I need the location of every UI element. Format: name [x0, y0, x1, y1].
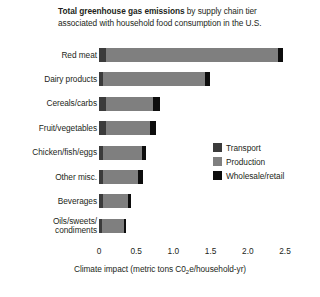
x-axis-title-subscript: 2: [186, 269, 189, 275]
chart-title-line1: Total greenhouse gas emissions by supply…: [58, 6, 316, 18]
stacked-bar: [99, 72, 210, 86]
y-axis-label: Beverages: [1, 197, 97, 207]
y-axis-label-line: condiments: [1, 226, 97, 236]
y-axis-label: Cereals/carbs: [1, 99, 97, 109]
chart-legend: TransportProductionWholesale/retail: [213, 142, 317, 184]
bar-segment-production: [106, 121, 149, 135]
chart-subtitle: associated with household food consumpti…: [58, 18, 316, 30]
bar-segment-wholesale-retail: [205, 72, 209, 86]
bar-row: [99, 121, 285, 135]
legend-label: Production: [226, 157, 265, 167]
bar-segment-wholesale-retail: [128, 194, 131, 208]
x-axis-tick: 1.0: [168, 246, 180, 256]
legend-swatch: [213, 157, 222, 166]
bar-segment-production: [103, 72, 206, 86]
bar-segment-production: [103, 146, 142, 160]
y-axis-label: Dairy products: [1, 75, 97, 85]
legend-item: Transport: [213, 142, 317, 153]
stacked-bar: [99, 121, 156, 135]
bar-row: [99, 194, 285, 208]
x-axis-tick: 0.5: [130, 246, 142, 256]
bar-segment-wholesale-retail: [138, 170, 142, 184]
y-axis-labels: Red meatDairy productsCereals/carbsFruit…: [0, 47, 97, 242]
bar-segment-production: [103, 170, 139, 184]
bar-segment-production: [103, 194, 128, 208]
stacked-bar: [99, 146, 146, 160]
bar-segment-wholesale-retail: [124, 219, 126, 233]
legend-item: Production: [213, 156, 317, 167]
y-axis-label: Chicken/fish/eggs: [1, 148, 97, 158]
stacked-bar: [99, 219, 126, 233]
y-axis-label-line: Beverages: [1, 197, 97, 207]
x-axis-tick: 1.5: [205, 246, 217, 256]
y-axis-label-line: Chicken/fish/eggs: [1, 148, 97, 158]
bar-segment-production: [102, 219, 124, 233]
y-axis-label-line: Cereals/carbs: [1, 99, 97, 109]
bar-row: [99, 97, 285, 111]
chart-title: Total greenhouse gas emissions by supply…: [58, 6, 316, 29]
y-axis-label-line: Dairy products: [1, 75, 97, 85]
x-axis-tick-labels: 00.51.01.52.02.5: [0, 246, 320, 258]
bar-segment-wholesale-retail: [142, 146, 146, 160]
legend-item: Wholesale/retail: [213, 170, 317, 181]
x-axis-title-post: e/household-yr): [189, 264, 246, 274]
x-axis-tick: 0: [97, 246, 102, 256]
y-axis-label: Red meat: [1, 51, 97, 61]
y-axis-label: Fruit/vegetables: [1, 124, 97, 134]
bar-segment-wholesale-retail: [153, 97, 160, 111]
bar-segment-production: [106, 97, 153, 111]
bar-segment-production: [106, 48, 279, 62]
legend-label: Wholesale/retail: [226, 171, 284, 181]
x-axis-title-pre: Climate impact (metric tons C0: [74, 264, 186, 274]
bar-row: [99, 72, 285, 86]
y-axis-label-line: Other misc.: [1, 173, 97, 183]
bar-segment-wholesale-retail: [278, 48, 282, 62]
stacked-bar: [99, 194, 131, 208]
bar-row: [99, 219, 285, 233]
chart-title-bold: Total greenhouse gas emissions: [58, 6, 185, 16]
bar-row: [99, 48, 285, 62]
y-axis-label: Oils/sweets/condiments: [1, 217, 97, 236]
y-axis-label: Other misc.: [1, 173, 97, 183]
chart-figure: Total greenhouse gas emissions by supply…: [0, 0, 320, 297]
y-axis-label-line: Red meat: [1, 51, 97, 61]
legend-label: Transport: [226, 143, 261, 153]
x-axis-line: [99, 242, 285, 243]
x-axis-title: Climate impact (metric tons C02e/househo…: [0, 264, 320, 274]
y-axis-label-line: Fruit/vegetables: [1, 124, 97, 134]
x-axis-tick: 2.5: [279, 246, 291, 256]
legend-swatch: [213, 171, 222, 180]
bar-segment-transport: [99, 48, 106, 62]
chart-title-rest: by supply chain tier: [185, 6, 257, 16]
stacked-bar: [99, 170, 143, 184]
bar-segment-transport: [99, 121, 106, 135]
bar-segment-transport: [99, 97, 106, 111]
stacked-bar: [99, 97, 160, 111]
x-axis-tick: 2.0: [242, 246, 254, 256]
bar-segment-wholesale-retail: [150, 121, 156, 135]
stacked-bar: [99, 48, 283, 62]
legend-swatch: [213, 143, 222, 152]
